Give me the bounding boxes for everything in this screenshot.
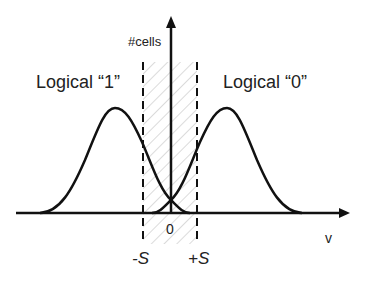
distribution-diagram: #cells Logical “1” Logical “0” 0 v -S +S: [0, 0, 371, 282]
plus-s-label: +S: [188, 249, 210, 268]
y-axis-label: #cells: [128, 34, 162, 49]
diagram-svg: #cells Logical “1” Logical “0” 0 v -S +S: [0, 0, 371, 282]
origin-label: 0: [166, 221, 174, 237]
x-axis-arrow-icon: [339, 208, 350, 218]
x-axis-label: v: [325, 230, 332, 246]
y-axis-arrow-icon: [166, 16, 176, 28]
right-distribution-label: Logical “0”: [223, 72, 307, 92]
minus-s-label: -S: [132, 249, 150, 268]
left-distribution-label: Logical “1”: [36, 72, 120, 92]
